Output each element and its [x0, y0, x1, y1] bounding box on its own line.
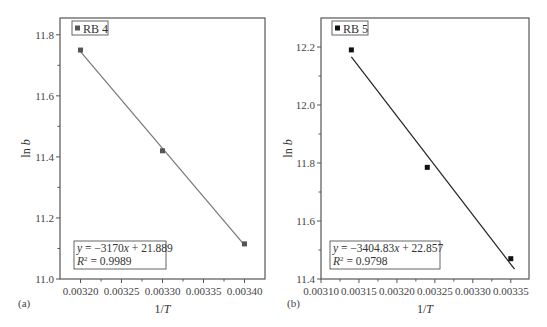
fit-equation: y = −3170x + 21.889	[76, 242, 173, 255]
data-point	[349, 47, 354, 52]
y-tick-label: 12.0	[296, 99, 316, 111]
x-tick-label: 0.00320	[379, 285, 415, 297]
panel-a: 0.003200.003250.003300.003350.0034011.01…	[18, 18, 265, 316]
x-axis-title: 1/T	[417, 302, 434, 316]
panel-label: (a)	[18, 297, 31, 310]
y-tick-label: 12.2	[296, 41, 315, 53]
x-tick-label: 0.00330	[455, 285, 491, 297]
y-tick-label: 11.0	[35, 273, 54, 285]
legend-marker-icon	[75, 26, 80, 31]
x-tick-label: 0.00325	[104, 285, 140, 297]
x-tick-label: 0.00315	[341, 285, 377, 297]
data-point	[508, 256, 513, 261]
data-point	[242, 241, 247, 246]
y-axis-title: ln b	[19, 139, 33, 157]
y-tick-label: 11.6	[35, 90, 54, 102]
y-tick-label: 11.4	[296, 273, 315, 285]
panel-b: 0.003100.003150.003200.003250.003300.003…	[281, 18, 529, 316]
data-point	[78, 48, 83, 53]
y-tick-label: 11.4	[35, 151, 54, 163]
y-tick-label: 11.2	[35, 212, 54, 224]
legend-label: RB 5	[343, 22, 368, 36]
y-tick-label: 11.6	[296, 215, 315, 227]
fit-line	[351, 57, 514, 269]
x-tick-label: 0.00335	[493, 285, 529, 297]
x-tick-label: 0.00340	[227, 285, 263, 297]
figure: 0.003200.003250.003300.003350.0034011.01…	[0, 0, 547, 327]
x-axis-title: 1/T	[154, 302, 171, 316]
y-axis-title: ln b	[281, 139, 295, 157]
fit-equation: y = −3404.83x + 22.857	[332, 242, 443, 255]
x-tick-label: 0.00320	[63, 285, 99, 297]
data-point	[160, 148, 165, 153]
panel-label: (b)	[287, 297, 300, 310]
legend-marker-icon	[335, 26, 340, 31]
legend-label: RB 4	[83, 22, 108, 36]
data-point	[425, 165, 430, 170]
x-tick-label: 0.00335	[186, 285, 222, 297]
y-tick-label: 11.8	[296, 157, 315, 169]
x-tick-label: 0.00310	[303, 285, 339, 297]
x-tick-label: 0.00325	[417, 285, 453, 297]
y-tick-label: 11.8	[35, 29, 54, 41]
x-tick-label: 0.00330	[145, 285, 181, 297]
